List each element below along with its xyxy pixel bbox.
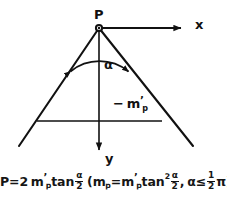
left-characteristic-line xyxy=(19,28,99,146)
formula-m-p: mp xyxy=(93,174,111,189)
formula-pi: π xyxy=(216,174,226,189)
formula-alpha-over-2-2: α2 xyxy=(171,171,179,191)
formula-equals: = xyxy=(9,174,19,189)
interior-mass-label: − m’p xyxy=(113,97,148,110)
fraction-denominator: 2 xyxy=(75,181,83,192)
formula-paren-close: ) xyxy=(226,174,227,189)
formula-tan-1: tan xyxy=(51,174,74,189)
formula-lhs-P: P xyxy=(0,174,9,189)
formula-comma: , xyxy=(180,174,185,189)
p-subscript: p xyxy=(142,104,148,113)
p-subscript: p xyxy=(105,181,110,190)
formula-caption: P=2m’ptanα2(mp=m’ptan2α2,α≤12π) xyxy=(0,171,227,191)
formula-equals-2: = xyxy=(111,174,121,189)
m-prime-p-cluster: m’p xyxy=(127,97,148,110)
p-subscript: p xyxy=(46,181,51,190)
x-axis-label: x xyxy=(195,18,203,31)
formula-coefficient: 2 xyxy=(19,174,28,189)
angle-alpha-label: α xyxy=(104,58,113,71)
formula-one-half: 12 xyxy=(207,171,215,191)
minus-sign: − xyxy=(113,97,124,110)
formula-tan-exponent: 2 xyxy=(165,172,170,181)
fraction-numerator: α xyxy=(171,171,179,181)
apex-label-P: P xyxy=(94,8,104,21)
formula-m-prime-p-1: m’p xyxy=(31,174,51,189)
figure-container: P x y α − m’p P=2m’ptanα2(mp=m’ptan2α2,α… xyxy=(0,0,227,198)
formula-alpha: α xyxy=(187,174,196,189)
fraction-numerator: α xyxy=(75,171,83,181)
m-symbol: m xyxy=(31,174,44,189)
m-symbol: m xyxy=(121,174,134,189)
formula-leq: ≤ xyxy=(196,174,206,189)
y-axis-label: y xyxy=(105,152,113,165)
fraction-denominator: 2 xyxy=(171,181,179,192)
p-subscript: p xyxy=(136,181,141,190)
fraction-numerator: 1 xyxy=(207,171,215,181)
formula-m-prime-p-2: m’p xyxy=(121,174,141,189)
formula-tan-2: tan xyxy=(142,174,165,189)
formula-alpha-over-2-1: α2 xyxy=(75,171,83,191)
fraction-denominator: 2 xyxy=(207,181,215,192)
formula-expression: P=2m’ptanα2(mp=m’ptan2α2,α≤12π) xyxy=(0,171,227,191)
apex-point-core xyxy=(98,27,100,29)
m-symbol: m xyxy=(93,174,106,189)
m-symbol: m xyxy=(127,96,140,111)
right-characteristic-line xyxy=(99,28,193,146)
